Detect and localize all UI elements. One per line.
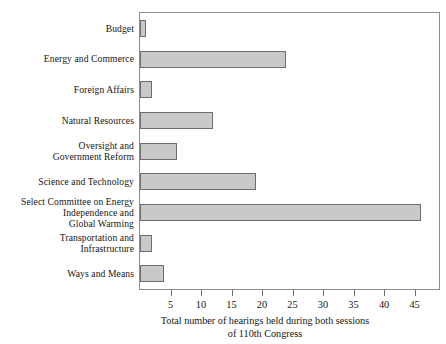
tick-label: 30 [310,299,336,311]
bar-chart: BudgetEnergy and CommerceForeign Affairs… [0,0,446,344]
category-label-line: Government Reform [0,151,134,162]
category-label-line: Foreign Affairs [0,84,134,95]
category-label-line: Ways and Means [0,268,134,279]
tick-mark [415,290,416,296]
category-label-line: Natural Resources [0,115,134,126]
tick-mark [171,290,172,296]
bar [140,51,286,68]
x-axis-caption: Total number of hearings held during bot… [100,314,430,340]
tick-label: 20 [249,299,275,311]
category-label-line: Select Committee on Energy [0,196,134,207]
category-label: Energy and Commerce [0,53,134,64]
caption-line-1: Total number of hearings held during bot… [100,314,430,327]
bar [140,112,213,129]
bar [140,265,164,282]
tick-label: 25 [280,299,306,311]
category-label: Foreign Affairs [0,84,134,95]
caption-line-2: of 110th Congress [100,327,430,340]
category-label: Natural Resources [0,115,134,126]
bar [140,81,152,98]
bar [140,143,177,160]
tick-mark [262,290,263,296]
bar [140,173,256,190]
category-label: Oversight andGovernment Reform [0,140,134,162]
tick-label: 40 [371,299,397,311]
tick-mark [354,290,355,296]
tick-label: 35 [341,299,367,311]
category-label: Science and Technology [0,176,134,187]
category-label-line: Transportation and [0,232,134,243]
tick-label: 10 [188,299,214,311]
x-axis-tick-labels: 51015202530354045 [0,299,446,313]
category-label-line: Energy and Commerce [0,53,134,64]
category-label-line: Science and Technology [0,176,134,187]
category-axis-labels: BudgetEnergy and CommerceForeign Affairs… [0,12,134,290]
category-label-line: Independence and [0,207,134,218]
category-label: Budget [0,23,134,34]
category-label-line: Infrastructure [0,243,134,254]
category-label-line: Global Warming [0,218,134,229]
bars-layer [140,13,439,289]
bar [140,235,152,252]
category-label: Select Committee on EnergyIndependence a… [0,196,134,230]
tick-mark [201,290,202,296]
tick-label: 15 [219,299,245,311]
tick-mark [293,290,294,296]
bar [140,204,421,221]
tick-mark [323,290,324,296]
category-label-line: Oversight and [0,140,134,151]
category-label-line: Budget [0,23,134,34]
category-label: Transportation andInfrastructure [0,232,134,254]
x-axis-tick-marks [140,290,440,297]
tick-label: 45 [402,299,428,311]
bar [140,20,146,37]
category-label: Ways and Means [0,268,134,279]
tick-mark [384,290,385,296]
tick-mark [232,290,233,296]
tick-label: 5 [158,299,184,311]
